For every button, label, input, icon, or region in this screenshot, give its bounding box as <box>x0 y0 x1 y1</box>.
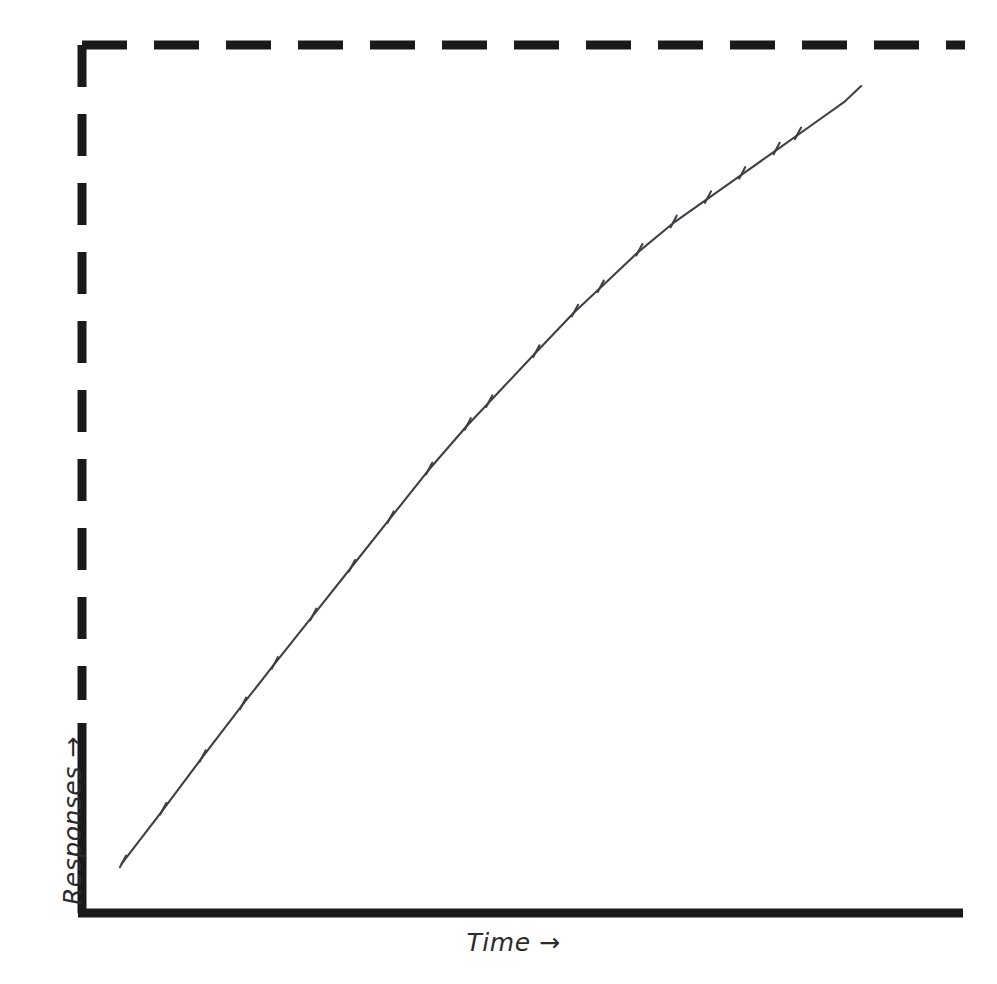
hatch-mark <box>310 609 316 620</box>
hatch-mark <box>200 750 206 761</box>
response-curve-path <box>122 86 861 864</box>
cumulative-record-figure: Responses → Time → <box>0 0 997 984</box>
hatch-mark <box>160 803 166 814</box>
hatch-mark <box>272 657 278 668</box>
dashed-border-group <box>82 45 965 700</box>
hatch-mark <box>388 511 394 522</box>
hatch-mark <box>120 856 126 867</box>
cumulative-response-curve <box>122 86 861 864</box>
x-axis-label: Time → <box>0 928 997 957</box>
solid-axes-group <box>78 723 963 913</box>
y-axis-label: Responses → <box>58 736 87 905</box>
hatch-mark <box>240 698 246 709</box>
hatch-mark <box>349 560 355 571</box>
reinforcement-hatch-marks <box>120 128 801 868</box>
plot-area <box>0 0 997 984</box>
